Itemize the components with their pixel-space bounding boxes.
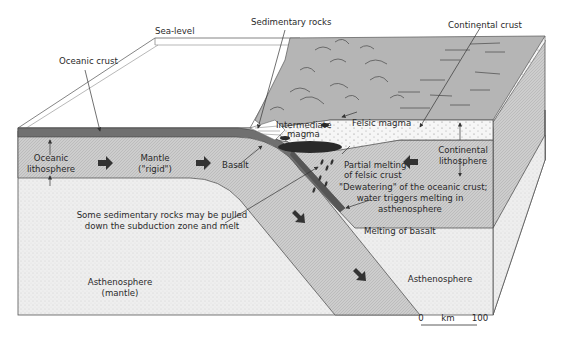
scale-unit: km: [441, 313, 454, 323]
label-oceanic-lithosphere-2: lithosphere: [27, 164, 75, 174]
label-mantle-rigid: ("rigid"): [138, 164, 172, 174]
label-asthenosphere-right: Asthenosphere: [408, 274, 472, 284]
label-sea-level: Sea-level: [155, 26, 195, 36]
label-asthenosphere-mantle: Asthenosphere: [88, 277, 152, 287]
label-intermediate-magma-2: magma: [287, 129, 320, 139]
label-dewatering-3: asthenosphere: [378, 204, 442, 214]
scale-start: 0: [418, 313, 423, 323]
label-melting-of-basalt: Melting of basalt: [364, 226, 436, 236]
label-continental-lithosphere: Continental: [438, 145, 488, 155]
label-oceanic-lithosphere: Oceanic: [34, 153, 69, 163]
label-dewatering-2: water triggers melting in: [357, 193, 464, 203]
subduction-diagram: Sea-level Sedimentary rocks Continental …: [0, 0, 582, 340]
label-sedimentary-pulled-2: down the subduction zone and melt: [85, 221, 240, 231]
label-sedimentary-rocks: Sedimentary rocks: [251, 17, 332, 27]
label-felsic-magma: Felsic magma: [352, 118, 411, 128]
label-asthenosphere-mantle-2: (mantle): [102, 288, 139, 298]
label-partial-melting: Partial melting: [344, 160, 406, 170]
scale-end: 100: [472, 313, 488, 323]
label-dewatering: "Dewatering" of the oceanic crust;: [339, 182, 487, 192]
label-mantle: Mantle: [140, 153, 169, 163]
label-oceanic-crust: Oceanic crust: [59, 56, 119, 66]
label-sedimentary-pulled: Some sedimentary rocks may be pulled: [77, 210, 248, 220]
label-continental-lithosphere-2: lithosphere: [439, 156, 487, 166]
label-partial-melting-2: of felsic crust: [344, 170, 402, 180]
label-continental-crust: Continental crust: [448, 20, 523, 30]
label-basalt: Basalt: [222, 160, 249, 170]
